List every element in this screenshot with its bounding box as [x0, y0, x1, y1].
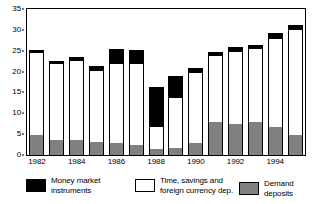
bar-1994 [268, 33, 283, 155]
bar-segment [50, 63, 63, 140]
bar-1992 [228, 47, 243, 155]
legend-label-money-market: Money market instruments [51, 176, 100, 195]
bar-segment [209, 55, 222, 122]
legend-label-time-savings: Time, savings and foreign currency dep. [160, 176, 233, 195]
bar-1995 [288, 25, 303, 155]
bar-segment [90, 142, 103, 155]
bar-segment [130, 51, 143, 63]
x-axis-tick-label: 1986 [108, 157, 125, 166]
bar-segment [30, 135, 43, 155]
bar-segment [70, 140, 83, 155]
y-axis-tick [22, 113, 24, 114]
legend-item-demand-deposits: Demand deposits [239, 179, 306, 198]
y-axis-tick-label: 35 [12, 5, 21, 13]
bar-segment [150, 126, 163, 149]
bar-segment [150, 88, 163, 126]
bar-segment [169, 97, 182, 148]
y-axis: 05101520253035 [0, 8, 24, 156]
legend-label-demand-deposits: Demand deposits [264, 179, 306, 198]
bar-segment [229, 51, 242, 124]
bar-segment [50, 140, 63, 155]
bar-segment [189, 72, 202, 144]
bar-1990 [188, 68, 203, 155]
x-axis-tick-label: 1992 [227, 157, 244, 166]
y-axis-tick-label: 0 [17, 151, 21, 159]
bar-segment [209, 122, 222, 155]
bar-segment [70, 60, 83, 141]
y-axis-tick [22, 92, 24, 93]
plot-area [26, 8, 306, 156]
bar-1982 [29, 50, 44, 155]
y-axis-tick-label: 20 [12, 68, 21, 76]
bar-1987 [129, 50, 144, 155]
bar-segment [189, 143, 202, 155]
bar-segment [169, 77, 182, 97]
bar-1986 [109, 49, 124, 155]
y-axis-tick [22, 50, 24, 51]
bar-segment [229, 124, 242, 155]
y-axis-tick-label: 10 [12, 109, 21, 117]
bar-segment [289, 29, 302, 135]
x-axis-tick-label: 1988 [147, 157, 164, 166]
bar-segment [130, 63, 143, 146]
chart-legend: Money market instruments Time, savings a… [26, 173, 306, 201]
x-axis-tick-label: 1984 [68, 157, 85, 166]
bar-1983 [49, 61, 64, 155]
legend-item-money-market: Money market instruments [26, 176, 100, 195]
bar-segment [269, 127, 282, 155]
y-axis-tick [22, 29, 24, 30]
bar-segment [150, 149, 163, 155]
bar-1985 [89, 66, 104, 155]
legend-item-time-savings: Time, savings and foreign currency dep. [135, 176, 233, 195]
y-axis-tick [22, 134, 24, 135]
bar-1984 [69, 57, 84, 155]
bar-segment [90, 70, 103, 142]
y-axis-tick [22, 155, 24, 156]
bar-1988 [149, 87, 164, 155]
y-axis-tick-label: 30 [12, 26, 21, 34]
bar-segment [110, 63, 123, 142]
bar-segment [289, 135, 302, 155]
stacked-bar-chart: 05101520253035 1982198419861988199019921… [0, 0, 312, 204]
bars-layer [27, 9, 305, 155]
bar-segment [249, 122, 262, 155]
bar-1991 [208, 52, 223, 155]
bar-segment [269, 38, 282, 127]
legend-swatch-demand-deposits [239, 182, 259, 195]
bar-segment [130, 145, 143, 155]
y-axis-tick [22, 9, 24, 10]
bar-segment [249, 48, 262, 122]
bar-1993 [248, 45, 263, 155]
bar-segment [169, 148, 182, 155]
x-axis: 1982198419861988199019921994 [26, 157, 306, 169]
y-axis-tick-label: 5 [17, 130, 21, 138]
y-axis-tick [22, 71, 24, 72]
bar-segment [30, 52, 43, 135]
x-axis-tick-label: 1982 [28, 157, 45, 166]
bar-segment [110, 50, 123, 63]
y-axis-tick-label: 15 [12, 88, 21, 96]
legend-swatch-money-market [26, 179, 46, 192]
bar-1989 [168, 76, 183, 155]
y-axis-tick-label: 25 [12, 47, 21, 55]
x-axis-tick-label: 1990 [187, 157, 204, 166]
bar-segment [110, 143, 123, 156]
x-axis-tick-label: 1994 [267, 157, 284, 166]
legend-swatch-time-savings [135, 179, 155, 192]
